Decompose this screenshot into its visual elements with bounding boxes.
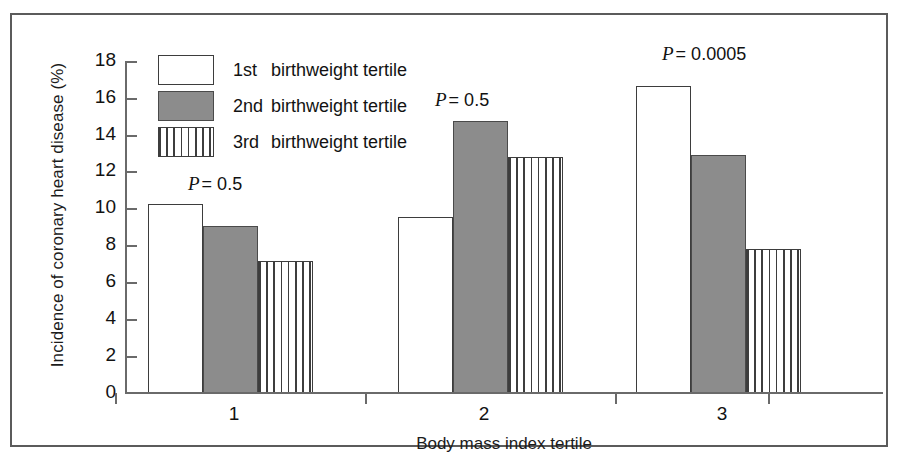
y-tick-label-8: 8 bbox=[72, 233, 116, 255]
legend-label-1st: 1stbirthweight tertile bbox=[233, 60, 407, 81]
legend-ordinal-2nd: 2nd bbox=[233, 96, 271, 117]
legend-label-3rd: 3rdbirthweight tertile bbox=[233, 132, 407, 153]
y-tick-label-4: 4 bbox=[72, 307, 116, 329]
y-tick-16 bbox=[125, 98, 137, 100]
bar-group3-series3 bbox=[746, 249, 801, 392]
x-tick-label-3: 3 bbox=[692, 403, 752, 425]
legend-item-3rd-tertile: 3rdbirthweight tertile bbox=[158, 125, 407, 159]
y-axis-label: Incidence of coronary heart disease (%) bbox=[48, 50, 68, 380]
y-tick-label-18: 18 bbox=[72, 49, 116, 71]
x-tick-label-2: 2 bbox=[454, 403, 514, 425]
x-tick-label-1: 1 bbox=[204, 403, 264, 425]
figure-canvas: Incidence of coronary heart disease (%) … bbox=[0, 0, 903, 459]
x-tick-3 bbox=[615, 393, 617, 404]
x-tick-2 bbox=[365, 393, 367, 404]
legend-swatch-hatch-icon bbox=[158, 127, 214, 157]
y-tick-12 bbox=[125, 171, 137, 173]
y-tick-label-6: 6 bbox=[72, 270, 116, 292]
pvalue-symbol: P bbox=[435, 89, 449, 110]
y-tick-4 bbox=[125, 319, 137, 321]
y-axis-line bbox=[125, 62, 127, 394]
legend-ordinal-1st: 1st bbox=[233, 60, 271, 81]
bar-group1-series1 bbox=[148, 204, 203, 392]
x-axis-label: Body mass index tertile bbox=[125, 434, 883, 454]
y-tick-8 bbox=[125, 245, 137, 247]
legend-ordinal-3rd: 3rd bbox=[233, 132, 271, 153]
y-tick-label-10: 10 bbox=[72, 196, 116, 218]
pvalue-text: = 0.5 bbox=[449, 90, 490, 110]
bar-group3-series2 bbox=[691, 155, 746, 392]
y-tick-label-0: 0 bbox=[72, 381, 116, 403]
y-tick-14 bbox=[125, 135, 137, 137]
y-tick-18 bbox=[125, 61, 137, 63]
bar-group2-series3 bbox=[508, 157, 563, 392]
bar-group2-series1 bbox=[398, 217, 453, 392]
legend-label-2nd: 2ndbirthweight tertile bbox=[233, 96, 407, 117]
y-tick-label-2: 2 bbox=[72, 344, 116, 366]
y-tick-6 bbox=[125, 282, 137, 284]
pvalue-group1: P= 0.5 bbox=[188, 173, 242, 195]
pvalue-symbol: P bbox=[662, 43, 676, 64]
pvalue-group2: P= 0.5 bbox=[435, 89, 489, 111]
figure-frame: Incidence of coronary heart disease (%) … bbox=[10, 13, 888, 447]
bar-group1-series3 bbox=[258, 261, 313, 392]
y-tick-label-12: 12 bbox=[72, 159, 116, 181]
legend-text-1st: birthweight tertile bbox=[271, 60, 407, 80]
bar-group2-series2 bbox=[453, 121, 508, 392]
pvalue-text: = 0.5 bbox=[202, 174, 243, 194]
bar-group3-series1 bbox=[636, 86, 691, 392]
x-tick-end bbox=[768, 393, 770, 404]
bar-group1-series2 bbox=[203, 226, 258, 392]
y-tick-10 bbox=[125, 208, 137, 210]
y-tick-2 bbox=[125, 356, 137, 358]
legend-text-2nd: birthweight tertile bbox=[271, 96, 407, 116]
pvalue-text: = 0.0005 bbox=[676, 44, 747, 64]
legend-swatch-solid-icon bbox=[158, 91, 214, 121]
y-tick-label-16: 16 bbox=[72, 86, 116, 108]
legend-text-3rd: birthweight tertile bbox=[271, 132, 407, 152]
pvalue-group3: P= 0.0005 bbox=[662, 43, 746, 65]
legend-swatch-open-icon bbox=[158, 55, 214, 85]
legend-item-1st-tertile: 1stbirthweight tertile bbox=[158, 53, 407, 87]
y-tick-label-14: 14 bbox=[72, 123, 116, 145]
pvalue-symbol: P bbox=[188, 173, 202, 194]
legend-item-2nd-tertile: 2ndbirthweight tertile bbox=[158, 89, 407, 123]
x-tick-1 bbox=[115, 393, 117, 404]
legend: 1stbirthweight tertile 2ndbirthweight te… bbox=[158, 53, 407, 161]
